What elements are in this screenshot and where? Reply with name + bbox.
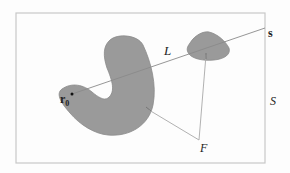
line-L — [72, 28, 265, 94]
label-r0: r0 — [60, 93, 69, 108]
field-line-1 — [149, 110, 199, 140]
field-line-2 — [199, 55, 206, 140]
label-r-subscript: 0 — [65, 99, 69, 108]
diagram-canvas — [0, 0, 290, 173]
large-c-shaped-body — [59, 36, 154, 135]
label-F: F — [200, 142, 207, 154]
label-S: S — [270, 95, 276, 107]
label-s: s — [268, 27, 273, 39]
origin-point — [71, 93, 74, 96]
small-blob-body — [187, 32, 229, 60]
label-L: L — [164, 44, 171, 57]
